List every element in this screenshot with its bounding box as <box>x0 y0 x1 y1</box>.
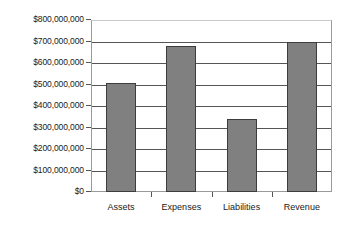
x-axis-label-expenses: Expenses <box>151 202 211 213</box>
y-axis-label: $800,000,000 <box>0 15 84 24</box>
x-axis-tick <box>151 192 152 197</box>
bar-liabilities <box>227 119 257 192</box>
y-axis-label: $600,000,000 <box>0 58 84 67</box>
y-axis-label: $100,000,000 <box>0 166 84 175</box>
x-axis-label-assets: Assets <box>91 202 151 213</box>
y-axis-label: $200,000,000 <box>0 144 84 153</box>
bar-assets <box>106 83 136 192</box>
x-axis-tick <box>212 192 213 197</box>
y-axis-label: $400,000,000 <box>0 101 84 110</box>
x-axis-label-revenue: Revenue <box>272 202 332 213</box>
y-axis-label: $700,000,000 <box>0 37 84 46</box>
bar-expenses <box>166 46 196 192</box>
bar-chart: $0$100,000,000$200,000,000$300,000,000$4… <box>0 0 346 233</box>
y-axis-label: $0 <box>0 187 84 196</box>
x-axis-label-liabilities: Liabilities <box>212 202 272 213</box>
bar-revenue <box>287 42 317 192</box>
y-axis-label: $300,000,000 <box>0 123 84 132</box>
y-axis-label: $500,000,000 <box>0 80 84 89</box>
bars-layer <box>91 20 332 192</box>
x-axis-tick <box>272 192 273 197</box>
